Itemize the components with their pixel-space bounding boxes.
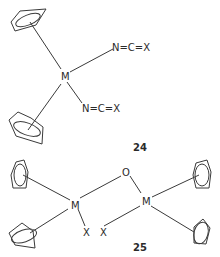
bond-cp-ll-metal-left xyxy=(30,209,68,233)
metal-atom-25-left: M xyxy=(71,200,80,211)
bond-metal-right-cp-ru xyxy=(152,175,199,197)
bond-metal-ncx-lower xyxy=(67,82,82,103)
structure-24: M N=C=X N=C=X 24 xyxy=(9,9,150,153)
bond-cp-upper-metal xyxy=(30,22,61,69)
cyclopentadienyl-ring-upper xyxy=(11,9,46,31)
isocyanate-lower: N=C=X xyxy=(82,103,120,114)
structure-25: M M O X X 25 xyxy=(9,160,211,253)
bond-metal-left-x xyxy=(78,209,85,226)
metal-atom-25-right: M xyxy=(142,196,151,207)
cyclopentadienyl-ring-right-lower xyxy=(191,219,210,245)
chemical-structures-diagram: M N=C=X N=C=X 24 xyxy=(0,0,220,257)
compound-label-25: 25 xyxy=(133,242,147,253)
bond-cp-lower-metal xyxy=(28,84,61,130)
cyclopentadienyl-ring-right-upper xyxy=(193,160,211,188)
x-atom-right: X xyxy=(100,227,107,238)
bond-metal-right-cp-rl xyxy=(151,206,194,232)
cyclopentadienyl-ring-left-upper xyxy=(11,160,28,188)
compound-label-24: 24 xyxy=(133,142,147,153)
bond-oxygen-metal-right xyxy=(130,176,141,193)
metal-atom-24: M xyxy=(61,71,70,82)
bond-metal-right-x xyxy=(104,206,140,226)
x-atom-left: X xyxy=(83,227,90,238)
isocyanate-upper: N=C=X xyxy=(112,42,150,53)
bond-metal-ncx-upper xyxy=(70,49,113,72)
bridging-oxygen: O xyxy=(122,167,130,178)
bond-cp-lu-metal-left xyxy=(23,175,70,200)
bond-metal-left-oxygen xyxy=(80,176,121,198)
cyclopentadienyl-ring-left-lower xyxy=(9,223,38,248)
